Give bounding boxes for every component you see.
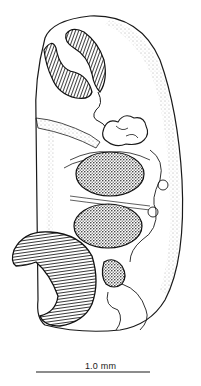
scale-bar-label: 1.0 mm [0,361,201,371]
testis-posterior [74,204,142,248]
organism-illustration [0,0,201,386]
ventral-sucker [12,232,96,326]
testis-anterior [76,152,144,196]
